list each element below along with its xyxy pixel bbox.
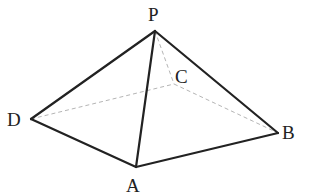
vertex-label-A: A <box>126 175 140 193</box>
edge-CB-hidden <box>174 84 278 133</box>
edge-DA <box>31 119 136 167</box>
vertex-label-C: C <box>175 66 188 87</box>
edge-PB <box>155 31 278 133</box>
edge-PA <box>136 31 155 167</box>
edge-PD <box>31 31 155 119</box>
pyramid-diagram: P A B C D <box>0 0 310 193</box>
vertex-label-P: P <box>148 4 159 25</box>
edge-DC-hidden <box>31 84 174 119</box>
edge-AB <box>136 133 278 167</box>
vertex-label-D: D <box>7 109 21 130</box>
vertex-label-B: B <box>282 122 295 143</box>
